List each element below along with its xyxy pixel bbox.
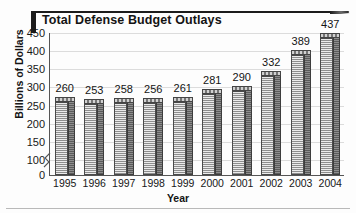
x-axis-tick-label: 1999	[171, 177, 194, 189]
bar-side-face	[215, 89, 222, 175]
bar-front-face	[232, 91, 245, 175]
x-axis-line	[49, 175, 344, 176]
y-axis-tick-label: 250	[15, 100, 45, 112]
y-axis-tick-label: 400	[15, 45, 45, 57]
bar-top-face	[320, 33, 340, 38]
bar-front-face	[143, 103, 156, 175]
x-axis-tick-label: 2001	[230, 177, 253, 189]
bar[interactable]	[261, 33, 281, 175]
y-axis-tick-label: 0	[15, 169, 45, 181]
bar-side-face	[274, 71, 281, 175]
bar[interactable]	[55, 33, 75, 175]
y-axis-tick-label: 450	[15, 27, 45, 39]
bar[interactable]	[143, 33, 163, 175]
bar-front-face	[261, 76, 274, 175]
bar-value-label: 437	[308, 18, 352, 30]
bar[interactable]	[320, 33, 340, 175]
bar[interactable]	[202, 33, 222, 175]
bar-front-face	[55, 102, 68, 175]
x-axis-tick-label: 2004	[319, 177, 342, 189]
x-axis-tick-label: 1998	[142, 177, 165, 189]
chart-figure: Total Defense Budget Outlays Billions of…	[0, 0, 356, 213]
x-axis-tick-label: 2003	[289, 177, 312, 189]
y-axis-tick-label: 150	[15, 136, 45, 148]
bar-top-face	[202, 89, 222, 94]
y-axis-tick-label: 300	[15, 81, 45, 93]
bar-front-face	[291, 55, 304, 175]
x-axis-title: Year	[0, 192, 356, 204]
x-axis-tick-label: 1997	[112, 177, 135, 189]
bar-top-face	[55, 97, 75, 102]
x-axis-tick-label: 2002	[260, 177, 283, 189]
bar-side-face	[68, 97, 75, 175]
y-axis-tick-label: 350	[15, 63, 45, 75]
bar-side-face	[245, 86, 252, 175]
bar-top-face	[114, 98, 134, 103]
bar-side-face	[156, 98, 163, 175]
x-axis-tick-label: 1995	[53, 177, 76, 189]
bar-top-face	[261, 71, 281, 76]
chart-title: Total Defense Budget Outlays	[42, 13, 222, 27]
y-axis-tick-label: 100	[15, 154, 45, 166]
bar-top-face	[291, 50, 311, 55]
bar-front-face	[202, 94, 215, 175]
bar-top-face	[84, 99, 104, 104]
bar-side-face	[333, 33, 340, 175]
bar[interactable]	[173, 33, 193, 175]
bar[interactable]	[232, 33, 252, 175]
bar-top-face	[173, 97, 193, 102]
bar[interactable]	[114, 33, 134, 175]
bar-front-face	[114, 103, 127, 175]
bar-front-face	[173, 102, 186, 175]
bar-value-label: 290	[220, 71, 264, 83]
bar-top-face	[232, 86, 252, 91]
bar[interactable]	[84, 33, 104, 175]
plot-area: 0100150200250300350400450 26025325825626…	[49, 33, 344, 175]
bar-side-face	[186, 97, 193, 175]
bar-front-face	[84, 104, 97, 175]
bar-side-face	[127, 98, 134, 175]
bar-value-label: 389	[279, 35, 323, 47]
bar-side-face	[304, 50, 311, 175]
title-frame-taper	[330, 11, 350, 14]
bar-front-face	[320, 38, 333, 175]
x-axis-tick-label: 1996	[83, 177, 106, 189]
bottom-divider	[6, 208, 350, 209]
bar[interactable]	[291, 33, 311, 175]
x-axis-tick-label: 2000	[201, 177, 224, 189]
y-axis-tick-label: 200	[15, 118, 45, 130]
bar-top-face	[143, 98, 163, 103]
bar-value-label: 332	[249, 56, 293, 68]
bar-side-face	[97, 99, 104, 175]
